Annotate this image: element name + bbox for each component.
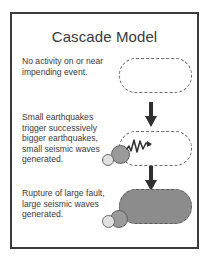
stage-3-graphic [112, 189, 192, 227]
down-arrow-icon [144, 102, 158, 128]
stage-1-graphic [112, 58, 192, 94]
stage-2-graphic [112, 131, 192, 167]
earthquake-small-icon [102, 215, 115, 228]
fault-segment-ruptured [119, 189, 192, 224]
stage-3-caption: Rupture of large fault, large seismic wa… [22, 188, 114, 220]
stage-2-caption: Small earthquakes trigger successively b… [22, 112, 114, 165]
earthquake-small-icon [102, 154, 114, 166]
cascade-model-figure: Cascade Model No activity on or near imp… [0, 0, 211, 262]
stage-1-caption: No activity on or near impending event. [22, 56, 114, 77]
figure-frame: Cascade Model No activity on or near imp… [10, 12, 199, 249]
figure-title: Cascade Model [12, 28, 197, 45]
fault-segment-quiescent [119, 58, 192, 93]
seismic-wave-small-icon [126, 137, 154, 157]
